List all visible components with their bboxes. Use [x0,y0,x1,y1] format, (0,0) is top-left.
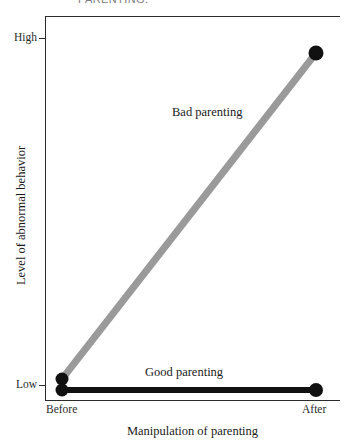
series-line-bad-parenting [56,46,324,386]
chart-figure: PARENTING. High Low Before After Level o… [0,0,349,444]
series-line-good-parenting [56,383,324,397]
annotation-bad-parenting: Bad parenting [172,105,242,120]
line-bad-parenting [62,53,316,379]
datapoint-good-after [309,383,323,397]
datapoint-bad-after [309,46,324,61]
datapoint-good-before [56,384,69,397]
annotation-good-parenting: Good parenting [145,365,223,380]
